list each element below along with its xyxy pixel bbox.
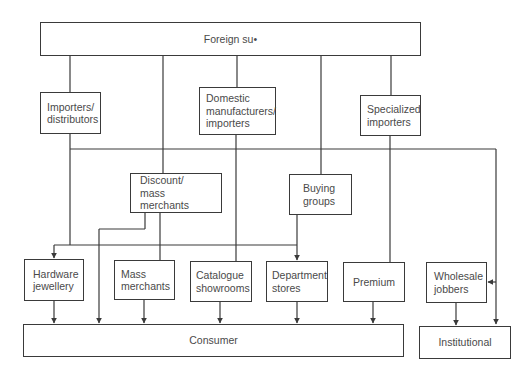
consumer-label: Consumer [189, 334, 237, 347]
department-stores-box: Department stores [266, 261, 328, 302]
hardware-jewellery-box: Hardware jewellery [24, 259, 84, 301]
catalogue-showrooms-label: Catalogue showrooms [196, 269, 250, 294]
department-stores-label: Department stores [272, 269, 327, 294]
wholesale-jobbers-label: Wholesale jobbers [434, 270, 483, 295]
hardware-jewellery-label: Hardware jewellery [33, 268, 79, 293]
institutional-label: Institutional [438, 336, 491, 349]
foreign-supplier-box: Foreign su• [40, 22, 421, 56]
domestic-manufacturers-box: Domestic manufacturers/ importers [199, 87, 276, 135]
premium-box: Premium [343, 262, 405, 302]
discount-mass-merchants-box: Discount/ mass merchants [130, 173, 222, 213]
connector-lines [0, 0, 530, 376]
buying-groups-label: Buying groups [303, 182, 335, 207]
specialized-importers-box: Specialized importers [360, 95, 421, 136]
mass-merchants-label: Mass merchants [121, 268, 170, 293]
importers-distributors-label: Importers/ distributors [47, 101, 98, 126]
consumer-box: Consumer [23, 324, 404, 357]
domestic-manufacturers-label: Domestic manufacturers/ importers [206, 92, 276, 130]
discount-mass-merchants-label: Discount/ mass merchants [140, 174, 215, 212]
specialized-importers-label: Specialized importers [367, 103, 421, 128]
catalogue-showrooms-box: Catalogue showrooms [190, 261, 252, 302]
wholesale-jobbers-box: Wholesale jobbers [426, 262, 487, 303]
institutional-box: Institutional [419, 326, 511, 359]
buying-groups-box: Buying groups [289, 174, 352, 215]
importers-distributors-box: Importers/ distributors [40, 92, 101, 134]
mass-merchants-box: Mass merchants [114, 260, 175, 300]
premium-label: Premium [353, 276, 395, 289]
foreign-supplier-label: Foreign su• [204, 33, 257, 46]
